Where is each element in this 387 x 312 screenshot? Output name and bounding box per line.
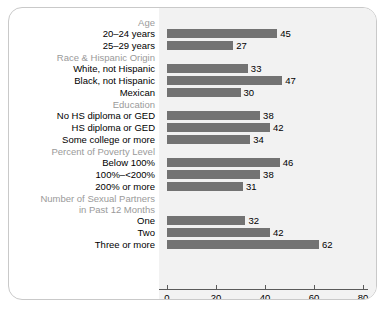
category-label: Two bbox=[20, 227, 155, 238]
category-label: One bbox=[20, 215, 155, 226]
bar bbox=[167, 111, 260, 120]
group-header-row: Age bbox=[9, 17, 377, 28]
group-header-label: Age bbox=[20, 17, 155, 28]
bar-container: 62 bbox=[159, 239, 377, 250]
category-label: Below 100% bbox=[20, 157, 155, 168]
bar-value-label: 33 bbox=[251, 63, 262, 74]
bar-value-label: 42 bbox=[273, 122, 284, 133]
category-label: 20–24 years bbox=[20, 28, 155, 39]
chart-rows: Age20–24 years4525–29 years27Race & Hisp… bbox=[9, 8, 377, 300]
x-axis-tick-label: 40 bbox=[253, 292, 277, 300]
group-header-label: Race & Hispanic Origin bbox=[20, 52, 155, 63]
x-axis-tick-label: 60 bbox=[302, 292, 326, 300]
category-label: HS diploma or GED bbox=[20, 122, 155, 133]
bar-value-label: 27 bbox=[236, 40, 247, 51]
x-axis-tick bbox=[363, 285, 364, 289]
bar bbox=[167, 228, 270, 237]
bar bbox=[167, 88, 241, 97]
bar-row: Some college or more34 bbox=[9, 134, 377, 145]
bar-row: White, not Hispanic33 bbox=[9, 63, 377, 74]
x-axis-tick bbox=[314, 285, 315, 289]
bar-row: 25–29 years27 bbox=[9, 40, 377, 51]
bar-row: Below 100%46 bbox=[9, 157, 377, 168]
bar-container: 33 bbox=[159, 63, 377, 74]
bar-container: 42 bbox=[159, 122, 377, 133]
bar-container: 31 bbox=[159, 181, 377, 192]
group-header-row: in Past 12 Months bbox=[9, 204, 377, 215]
bar-row: 100%–<200%38 bbox=[9, 169, 377, 180]
bar-container: 38 bbox=[159, 110, 377, 121]
category-label: Some college or more bbox=[20, 134, 155, 145]
bar bbox=[167, 29, 277, 38]
group-header-row: Percent of Poverty Level bbox=[9, 146, 377, 157]
bar-row: 200% or more31 bbox=[9, 181, 377, 192]
x-axis-tick bbox=[216, 285, 217, 289]
bar-container: 42 bbox=[159, 227, 377, 238]
bar bbox=[167, 76, 282, 85]
bar-value-label: 30 bbox=[244, 87, 255, 98]
bar-container: 45 bbox=[159, 28, 377, 39]
category-label: White, not Hispanic bbox=[20, 63, 155, 74]
bar-value-label: 32 bbox=[248, 215, 259, 226]
bar bbox=[167, 158, 280, 167]
bar-value-label: 38 bbox=[263, 169, 274, 180]
category-label: No HS diploma or GED bbox=[20, 110, 155, 121]
bar bbox=[167, 135, 250, 144]
bar-row: HS diploma or GED42 bbox=[9, 122, 377, 133]
bar-value-label: 38 bbox=[263, 110, 274, 121]
bar-value-label: 42 bbox=[273, 227, 284, 238]
bar-row: Mexican30 bbox=[9, 87, 377, 98]
bar bbox=[167, 182, 243, 191]
x-axis-tick-label: 20 bbox=[204, 292, 228, 300]
bar-container: 46 bbox=[159, 157, 377, 168]
bar-container: 34 bbox=[159, 134, 377, 145]
bar-container: 47 bbox=[159, 75, 377, 86]
bar-row: Black, not Hispanic47 bbox=[9, 75, 377, 86]
x-axis-tick bbox=[167, 285, 168, 289]
chart-card: Age20–24 years4525–29 years27Race & Hisp… bbox=[8, 7, 377, 300]
category-label: 100%–<200% bbox=[20, 169, 155, 180]
bar bbox=[167, 64, 248, 73]
category-label: 200% or more bbox=[20, 181, 155, 192]
bar bbox=[167, 123, 270, 132]
group-header-label: Percent of Poverty Level bbox=[20, 146, 155, 157]
bar-row: 20–24 years45 bbox=[9, 28, 377, 39]
bar-row: One32 bbox=[9, 215, 377, 226]
bar-value-label: 31 bbox=[246, 181, 257, 192]
bar bbox=[167, 240, 319, 249]
bar-value-label: 45 bbox=[280, 28, 291, 39]
bar-row: Three or more62 bbox=[9, 239, 377, 250]
x-axis-tick bbox=[265, 285, 266, 289]
bar-value-label: 46 bbox=[283, 157, 294, 168]
group-header-row: Number of Sexual Partners bbox=[9, 193, 377, 204]
bar-container: 38 bbox=[159, 169, 377, 180]
bar-value-label: 62 bbox=[322, 239, 333, 250]
group-header-row: Education bbox=[9, 99, 377, 110]
x-axis-tick-label: 80 bbox=[351, 292, 375, 300]
group-header-label: Education bbox=[20, 99, 155, 110]
x-axis-line bbox=[159, 289, 368, 290]
x-axis-tick-label: 0 bbox=[155, 292, 179, 300]
bar-container: 32 bbox=[159, 215, 377, 226]
group-header-label: Number of Sexual Partners bbox=[20, 193, 155, 204]
bar-value-label: 34 bbox=[253, 134, 264, 145]
group-header-row: Race & Hispanic Origin bbox=[9, 52, 377, 63]
category-label: Mexican bbox=[20, 87, 155, 98]
group-header-label: in Past 12 Months bbox=[20, 204, 155, 215]
bar bbox=[167, 216, 245, 225]
category-label: Black, not Hispanic bbox=[20, 75, 155, 86]
category-label: 25–29 years bbox=[20, 40, 155, 51]
bar-value-label: 47 bbox=[285, 75, 296, 86]
bar-row: No HS diploma or GED38 bbox=[9, 110, 377, 121]
bar bbox=[167, 41, 233, 50]
bar-row: Two42 bbox=[9, 227, 377, 238]
bar-container: 27 bbox=[159, 40, 377, 51]
category-label: Three or more bbox=[20, 239, 155, 250]
bar-container: 30 bbox=[159, 87, 377, 98]
bar bbox=[167, 170, 260, 179]
